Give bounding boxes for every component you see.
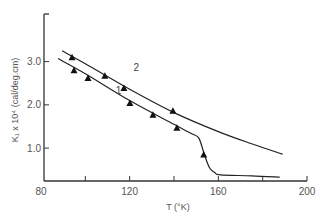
x-tick-label: 160 [210, 186, 227, 197]
x-tick-label: 200 [299, 186, 316, 197]
curves [58, 51, 283, 177]
series-1-point [84, 74, 91, 81]
y-tick-label: 1.0 [27, 143, 41, 154]
chart: 801201602001.02.03.0 12 T (°K) K₁ x 10⁴ … [0, 0, 325, 224]
x-tick-label: 120 [121, 186, 138, 197]
series-2-line [62, 51, 283, 154]
axes: 801201602001.02.03.0 [27, 14, 316, 197]
series-1-point [126, 100, 133, 107]
series-1-point [71, 67, 78, 74]
y-tick-label: 3.0 [27, 56, 41, 67]
series-1-point [200, 151, 207, 158]
x-tick-label: 80 [35, 186, 47, 197]
y-tick-label: 2.0 [27, 99, 41, 110]
series-1-line [58, 59, 280, 178]
series-2-label: 2 [134, 62, 140, 73]
y-axis-label: K₁ x 10⁴ (cal/deg.cm) [10, 58, 20, 142]
x-axis-label: T (°K) [166, 202, 189, 212]
